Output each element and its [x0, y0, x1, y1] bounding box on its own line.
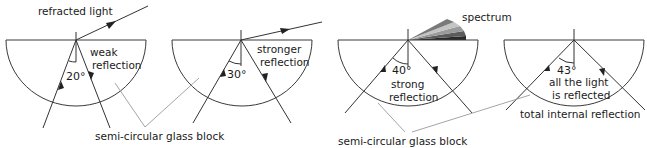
block-label-left-group: semi-circular glass block	[95, 78, 225, 142]
panel-2: 30° stronger reflection	[172, 22, 322, 123]
caption-1-line1: weak	[90, 46, 118, 58]
caption-4-line1: all the light	[549, 76, 608, 88]
panel-1: 20° weak reflection refracted light	[6, 5, 148, 128]
panel-4: 43° all the light is reflected total int…	[504, 29, 645, 120]
block-label-left: semi-circular glass block	[95, 130, 225, 142]
arrow-icon	[380, 65, 386, 72]
arrow-icon	[544, 65, 550, 71]
arrow-icon	[599, 68, 605, 76]
caption-2-line1: stronger	[257, 43, 302, 55]
arrow-icon	[106, 21, 116, 29]
arrow-icon	[88, 71, 94, 80]
spectrum-label: spectrum	[462, 11, 512, 23]
angle-label-1: 20°	[66, 70, 86, 83]
refracted-light-label: refracted light	[38, 5, 113, 17]
spectrum-fan	[408, 19, 466, 40]
caption-3-line2: reflection	[389, 91, 439, 103]
caption-2-line2: reflection	[260, 56, 310, 68]
angle-arc-4	[559, 58, 574, 63]
caption-4-line2: is reflected	[552, 89, 610, 101]
pointer-line	[378, 103, 405, 132]
caption-3-line1: strong	[391, 78, 424, 90]
angle-arc-2	[229, 61, 241, 64]
block-label-right: semi-circular glass block	[338, 135, 468, 147]
arrow-icon	[280, 28, 290, 34]
angle-label-2: 30°	[227, 68, 247, 81]
angle-arc-1	[69, 61, 76, 62]
pointer-line	[115, 78, 199, 127]
incident-ray-1	[43, 40, 76, 128]
incident-ray-2	[193, 40, 241, 123]
arrow-icon	[432, 66, 438, 74]
caption-1-line2: reflection	[92, 59, 142, 71]
critical-angle-diagram: 20° weak reflection refracted light 30° …	[0, 0, 647, 148]
total-internal-reflection-label: total internal reflection	[520, 108, 640, 120]
angle-label-3: 40°	[392, 64, 412, 77]
panel-3: 40° strong reflection spectrum	[338, 11, 512, 113]
